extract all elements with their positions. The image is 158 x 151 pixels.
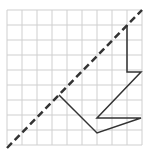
diagram-canvas: [0, 0, 158, 151]
shape-outline: [59, 25, 141, 133]
grid-diagram: [0, 0, 158, 151]
dashed-reflection-line: [7, 10, 142, 148]
